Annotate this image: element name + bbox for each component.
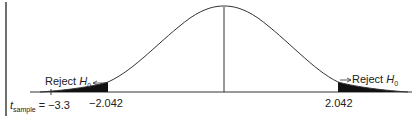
hypothesis-subscript: 0 (394, 80, 398, 87)
reject-text: Reject (352, 73, 383, 85)
hypothesis-subscript: 0 (87, 82, 91, 89)
right-critical-value: 2.042 (325, 98, 353, 109)
reject-text: Reject (45, 75, 76, 87)
t-distribution-diagram: Reject H0 Reject H0 tsample = −3.3 −2.04… (0, 0, 420, 118)
t-sample-value: = −3.3 (39, 99, 70, 111)
left-critical-value: −2.042 (89, 98, 123, 109)
t-sample-label: tsample = −3.3 (10, 100, 70, 113)
t-subscript: sample (13, 106, 36, 113)
left-reject-label: Reject H0 (45, 76, 91, 89)
hypothesis-symbol: H (79, 75, 87, 87)
hypothesis-symbol: H (386, 73, 394, 85)
right-reject-label: Reject H0 (352, 74, 398, 87)
